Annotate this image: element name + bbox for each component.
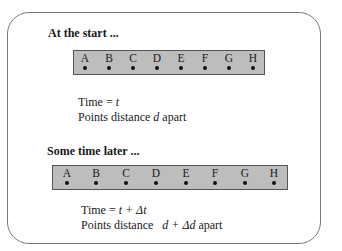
heading-start: At the start ... xyxy=(48,26,119,41)
point-f: F xyxy=(195,52,215,70)
point-label: D xyxy=(153,52,161,64)
point-label: F xyxy=(212,167,218,179)
points-bar-later: ABCDEFGH xyxy=(52,165,288,190)
point-label: A xyxy=(81,52,89,64)
point-dot-icon xyxy=(203,66,207,70)
point-label: A xyxy=(63,167,71,179)
points-bar-start: ABCDEFGH xyxy=(73,50,265,75)
point-label: C xyxy=(129,52,137,64)
point-dot-icon xyxy=(154,181,158,185)
point-g: G xyxy=(219,52,239,70)
point-dot-icon xyxy=(124,181,128,185)
point-dot-icon xyxy=(213,181,217,185)
point-c: C xyxy=(123,52,143,70)
point-label: E xyxy=(182,167,189,179)
point-dot-icon xyxy=(272,181,276,185)
point-e: E xyxy=(176,167,196,185)
point-f: F xyxy=(205,167,225,185)
point-dot-icon xyxy=(184,181,188,185)
point-c: C xyxy=(116,167,136,185)
point-label: F xyxy=(202,52,208,64)
point-label: G xyxy=(241,167,249,179)
time-label-start: Time = t xyxy=(78,95,119,110)
point-b: B xyxy=(86,167,106,185)
point-dot-icon xyxy=(243,181,247,185)
point-dot-icon xyxy=(155,66,159,70)
point-h: H xyxy=(243,52,263,70)
point-label: D xyxy=(152,167,160,179)
point-dot-icon xyxy=(227,66,231,70)
point-e: E xyxy=(171,52,191,70)
point-dot-icon xyxy=(94,181,98,185)
point-label: B xyxy=(92,167,100,179)
point-dot-icon xyxy=(131,66,135,70)
point-dot-icon xyxy=(251,66,255,70)
distance-label-later: Points distance d + Δd apart xyxy=(81,218,222,233)
point-label: C xyxy=(122,167,130,179)
point-d: D xyxy=(147,52,167,70)
heading-later: Some time later ... xyxy=(47,144,139,159)
point-label: B xyxy=(105,52,113,64)
point-d: D xyxy=(146,167,166,185)
point-dot-icon xyxy=(65,181,69,185)
distance-label-start: Points distance d apart xyxy=(78,110,186,125)
point-a: A xyxy=(75,52,95,70)
point-b: B xyxy=(99,52,119,70)
point-g: G xyxy=(235,167,255,185)
point-h: H xyxy=(264,167,284,185)
point-label: G xyxy=(225,52,233,64)
point-label: H xyxy=(249,52,257,64)
point-label: H xyxy=(270,167,278,179)
time-label-later: Time = t + Δt xyxy=(81,203,146,218)
point-dot-icon xyxy=(179,66,183,70)
point-dot-icon xyxy=(107,66,111,70)
diagram-frame xyxy=(7,12,321,244)
point-label: E xyxy=(177,52,184,64)
point-dot-icon xyxy=(83,66,87,70)
point-a: A xyxy=(57,167,77,185)
